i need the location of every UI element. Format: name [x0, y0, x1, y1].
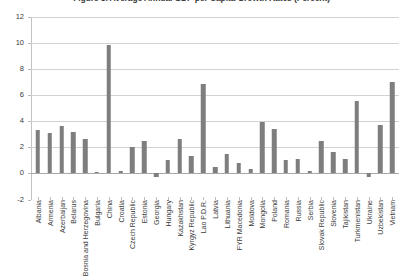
bar-slot [127, 17, 139, 200]
x-label-slot: Vietnam [386, 200, 398, 277]
y-axis-tick-label: 6 [20, 91, 24, 99]
bar [248, 169, 253, 174]
bar-slot [316, 17, 328, 200]
x-label-slot: Ukraine [363, 200, 375, 277]
bar-slot [304, 17, 316, 200]
x-label-slot: Slovenia [327, 200, 339, 277]
x-axis-tick-label: Croatia [117, 200, 124, 223]
x-axis-tick-label: Estonia [141, 200, 148, 223]
y-axis-tick-label: -2 [17, 196, 24, 204]
x-axis-tick-label: Albania [34, 200, 41, 223]
bar-slot [351, 17, 363, 200]
bar [166, 160, 171, 173]
chart-page: Figure 8. Average Annual GDP per Capita … [0, 0, 403, 277]
bar-slot [375, 17, 387, 200]
y-axis-tick-label: 4 [20, 117, 24, 125]
bar-slot [327, 17, 339, 200]
x-label-slot: Romania [280, 200, 292, 277]
x-axis-tick-label: Vietnam [389, 200, 396, 226]
bar-slot [256, 17, 268, 200]
y-axis: 121086420-2 [0, 0, 28, 277]
x-label-slot: Lithuania [221, 200, 233, 277]
x-axis-tick-label: Slovenia [330, 200, 337, 227]
x-axis-tick-label: Serbia [306, 200, 313, 220]
bar-slot [280, 17, 292, 200]
x-label-slot: Kazakhstan [174, 200, 186, 277]
x-label-slot: Poland [268, 200, 280, 277]
bar-slot [32, 17, 44, 200]
bar-slot [79, 17, 91, 200]
bar [355, 101, 360, 173]
bar-slot [292, 17, 304, 200]
bar [83, 139, 88, 173]
bar [142, 141, 147, 174]
bar-slot [245, 17, 257, 200]
x-label-slot: Belarus [67, 200, 79, 277]
bar-slot [56, 17, 68, 200]
bar-slot [339, 17, 351, 200]
bar [296, 159, 301, 173]
bar-slot [44, 17, 56, 200]
x-label-slot: China [103, 200, 115, 277]
bar [343, 159, 348, 173]
bar-slot [197, 17, 209, 200]
y-axis-tick-label: 12 [16, 13, 24, 21]
x-axis-tick-label: Mongolia [259, 200, 266, 228]
bar-slot [174, 17, 186, 200]
bar [107, 45, 112, 173]
x-label-slot: Serbia [304, 200, 316, 277]
x-axis-tick-label: Azerbaijan [58, 200, 65, 233]
x-axis-tick-label: Ukraine [365, 200, 372, 224]
x-label-slot: Georgia [150, 200, 162, 277]
bar [154, 173, 159, 177]
bar-slot [268, 17, 280, 200]
plot-area [31, 17, 399, 200]
bar [307, 171, 312, 174]
x-label-slot: Moldova [245, 200, 257, 277]
x-axis-tick-label: Bulgaria [93, 200, 100, 226]
bar-slot [221, 17, 233, 200]
x-axis-tick-label: Bosnia and Herzegovina [82, 200, 89, 276]
x-axis-tick-label: Slovak Republic [318, 200, 325, 250]
bar [260, 122, 265, 173]
bar-slot [115, 17, 127, 200]
bar [236, 163, 241, 173]
x-label-slot: Uzbekistan [375, 200, 387, 277]
x-label-slot: Estonia [138, 200, 150, 277]
x-label-slot: Turkmenistan [351, 200, 363, 277]
x-axis-tick-label: Lao P.D.R. [200, 200, 207, 233]
x-label-slot: Albania [32, 200, 44, 277]
x-axis-tick-label: Moldova [247, 200, 254, 226]
x-label-slot: Czech Republic [127, 200, 139, 277]
bar [366, 173, 371, 177]
bar-slot [233, 17, 245, 200]
bar [59, 126, 64, 173]
x-label-slot: Hungary [162, 200, 174, 277]
bar-slot [209, 17, 221, 200]
x-axis-tick-label: Czech Republic [129, 200, 136, 249]
y-axis-tick-label: 0 [20, 169, 24, 177]
bar [390, 82, 395, 174]
x-axis-tick-label: Kazakhstan [176, 200, 183, 237]
x-axis-tick-label: Belarus [70, 200, 77, 224]
x-axis-tick-label: Poland [271, 200, 278, 222]
bar [225, 154, 230, 174]
bar-slot [186, 17, 198, 200]
bar [213, 167, 218, 174]
x-label-slot: Lao P.D.R. [197, 200, 209, 277]
x-axis-tick-label: Armenia [46, 200, 53, 226]
x-axis-tick-label: Hungary [164, 200, 171, 226]
x-axis-labels: AlbaniaArmeniaAzerbaijanBelarusBosnia an… [31, 200, 399, 277]
x-label-slot: Bulgaria [91, 200, 103, 277]
x-label-slot: Slovak Republic [316, 200, 328, 277]
bar [47, 133, 52, 174]
x-label-slot: Latvia [209, 200, 221, 277]
bar [201, 84, 206, 173]
x-axis-tick-label: Latvia [212, 200, 219, 219]
bar [189, 156, 194, 173]
bar [118, 171, 123, 173]
x-axis-tick-label: FYR Macedonia [235, 200, 242, 250]
x-axis-tick-label: Lithuania [223, 200, 230, 228]
x-label-slot: Croatia [115, 200, 127, 277]
x-label-slot: Armenia [44, 200, 56, 277]
